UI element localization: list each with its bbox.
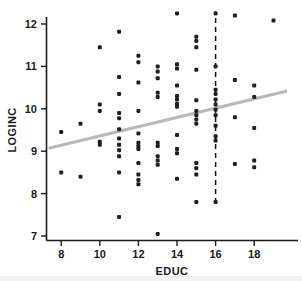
- data-point: [194, 35, 198, 39]
- data-points-group: [59, 11, 275, 235]
- data-point: [214, 92, 218, 96]
- data-point: [117, 111, 121, 115]
- data-point: [136, 131, 140, 135]
- data-point: [233, 115, 237, 119]
- data-point: [136, 182, 140, 186]
- regression-line: [49, 91, 287, 148]
- data-point: [194, 173, 198, 177]
- data-point: [79, 175, 83, 179]
- axes-group: [47, 17, 299, 241]
- data-point: [214, 134, 218, 138]
- data-point: [252, 159, 256, 163]
- data-point: [117, 215, 121, 219]
- data-point: [117, 148, 121, 152]
- data-point: [136, 60, 140, 64]
- data-point: [252, 95, 256, 99]
- data-point: [117, 170, 121, 174]
- data-point: [194, 39, 198, 43]
- data-point: [214, 124, 218, 128]
- x-tick-labels: 8 10 12 14 16 18: [58, 248, 260, 260]
- y-tick-label-8: 8: [31, 188, 37, 200]
- x-tick-label-16: 16: [209, 248, 221, 260]
- data-point: [156, 159, 160, 163]
- data-point: [214, 108, 218, 112]
- data-point: [156, 69, 160, 73]
- data-point: [175, 62, 179, 66]
- y-tick-label-11: 11: [25, 60, 37, 72]
- data-point: [156, 64, 160, 68]
- data-point: [175, 133, 179, 137]
- y-tick-label-12: 12: [25, 18, 37, 30]
- data-point: [156, 232, 160, 236]
- data-point: [214, 103, 218, 107]
- data-point: [117, 30, 121, 34]
- data-point: [194, 161, 198, 165]
- data-point: [117, 75, 121, 79]
- x-tick-label-14: 14: [171, 248, 184, 260]
- data-point: [175, 83, 179, 87]
- data-point: [252, 126, 256, 130]
- x-tick-label-12: 12: [132, 248, 144, 260]
- data-point: [252, 83, 256, 87]
- data-point: [156, 163, 160, 167]
- y-tick-label-9: 9: [31, 145, 37, 157]
- data-point: [194, 200, 198, 204]
- y-axis-title: LOGINC: [6, 107, 18, 152]
- data-point: [98, 103, 102, 107]
- plot-canvas: 12 11 10 9 8 7 8 10 12 14 16 18 EDUC LOG…: [0, 0, 302, 281]
- data-point: [233, 14, 237, 18]
- data-point: [59, 170, 63, 174]
- data-point: [117, 154, 121, 158]
- data-point: [194, 166, 198, 170]
- data-point: [175, 151, 179, 155]
- data-point: [156, 144, 160, 148]
- y-tick-labels: 12 11 10 9 8 7: [25, 18, 37, 242]
- data-point: [136, 173, 140, 177]
- data-point: [117, 127, 121, 131]
- x-tick-label-10: 10: [94, 248, 106, 260]
- data-point: [175, 97, 179, 101]
- data-point: [98, 45, 102, 49]
- data-point: [194, 109, 198, 113]
- scatter-plot-figure: 12 11 10 9 8 7 8 10 12 14 16 18 EDUC LOG…: [0, 0, 302, 281]
- y-tick-label-10: 10: [25, 103, 37, 115]
- data-point: [194, 98, 198, 102]
- x-tick-marks: [61, 241, 254, 247]
- data-point: [194, 45, 198, 49]
- data-point: [272, 19, 276, 23]
- data-point: [214, 97, 218, 101]
- data-point: [214, 88, 218, 92]
- data-point: [252, 165, 256, 169]
- data-point: [156, 91, 160, 95]
- data-point: [175, 67, 179, 71]
- data-point: [194, 122, 198, 126]
- data-point: [98, 109, 102, 113]
- y-tick-marks: [41, 24, 47, 236]
- bottom-edge-strip: [0, 276, 302, 281]
- data-point: [194, 117, 198, 121]
- y-tick-label-7: 7: [31, 230, 37, 242]
- data-point: [233, 162, 237, 166]
- x-tick-label-18: 18: [248, 248, 260, 260]
- data-point: [156, 95, 160, 99]
- data-point: [214, 200, 218, 204]
- data-point: [214, 11, 218, 15]
- data-point: [136, 178, 140, 182]
- data-point: [156, 76, 160, 80]
- data-point: [117, 143, 121, 147]
- data-point: [156, 154, 160, 158]
- data-point: [117, 116, 121, 120]
- x-tick-label-8: 8: [58, 248, 64, 260]
- data-point: [175, 147, 179, 151]
- data-point: [136, 81, 140, 85]
- data-point: [175, 11, 179, 15]
- data-point: [214, 113, 218, 117]
- data-point: [175, 177, 179, 181]
- data-point: [233, 78, 237, 82]
- data-point: [98, 143, 102, 147]
- data-point: [136, 54, 140, 58]
- data-point: [194, 113, 198, 117]
- data-point: [175, 105, 179, 109]
- data-point: [194, 68, 198, 72]
- data-point: [117, 92, 121, 96]
